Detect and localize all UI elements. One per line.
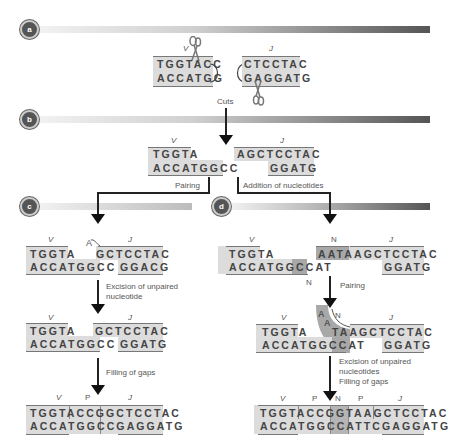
v-top-strand: TGGTA (30, 248, 76, 260)
n-bottom-nucleotides: AT (348, 339, 365, 351)
p-top-line (299, 405, 330, 406)
n-j-top-strand: AATAAGCTCCTAC (318, 248, 439, 260)
addition-arrow-horizontal (237, 192, 331, 194)
loop-nucleotide-a2: A (324, 318, 331, 328)
v-top-strand: TGGTA (30, 325, 76, 337)
j-segment-label: J (128, 235, 132, 244)
j-top-strand: AGCTCCTAC (349, 326, 434, 338)
n-top-line (331, 405, 348, 406)
v-segment-label: V (249, 235, 254, 244)
addition-arrow-shaft (237, 177, 239, 193)
excision-label: Excision of unpaired nucleotides Filling… (339, 357, 411, 387)
panel-b-badge: b (20, 110, 39, 129)
v-bottom-line (26, 434, 69, 435)
v-bottom-strand: ACCATGGCC (30, 261, 116, 273)
pairing-arrow-shaft (208, 177, 210, 193)
v-top-strand: TGGTA (262, 326, 308, 338)
pairing-arrow-horizontal (97, 192, 210, 194)
j-segment-label: J (269, 44, 273, 53)
excision-arrowhead-icon (91, 304, 105, 314)
n-segment-label: N (331, 235, 337, 244)
excision-label-line-1: Excision of unpaired (106, 282, 178, 292)
v-hairpin-icon (208, 60, 222, 88)
panel-d-badge: d (212, 197, 231, 216)
n-bottom-label: N (306, 278, 312, 287)
j-top-line (350, 246, 424, 247)
addition-label: Addition of nucleotides (243, 181, 324, 191)
p-top-line (349, 405, 373, 406)
j-bottom-strand: GGACG (120, 261, 170, 273)
v-top-line (226, 246, 260, 247)
v-top-line (153, 56, 213, 57)
excision-label-line-2: nucleotides (339, 367, 411, 377)
pairing-label: Pairing (340, 281, 365, 291)
v-bottom-strand: ACCATGGCCAT (262, 339, 366, 351)
n-top-nucleotides: AATA (318, 248, 354, 260)
scissors-icon (188, 36, 202, 62)
j-top-line (98, 246, 163, 247)
j-segment-label: J (280, 136, 284, 145)
v-bottom-line (258, 434, 298, 435)
filling-label: Filling of gaps (106, 368, 155, 378)
excision-label-line-2: nucleotide (106, 292, 178, 302)
cuts-arrowhead-icon (219, 135, 233, 145)
v-top-line (26, 405, 69, 406)
v-bottom-strand-seq: ACCATGGCC (229, 261, 315, 273)
pairing-arrow-down (97, 192, 99, 216)
n-top-nucleotides: TA (332, 326, 349, 338)
p-segment-label: P (312, 394, 317, 403)
joined-bottom-strand: ACCATGGCCGAGGATG (30, 420, 185, 432)
v-bottom-line (26, 274, 100, 275)
v-bottom-line (256, 352, 346, 353)
joined-bottom-strand: ACCATGGCCATTCGAGGATG (260, 420, 450, 432)
j-segment-label: J (389, 235, 393, 244)
pairing-arrowhead-icon (91, 214, 105, 224)
v-bottom-strand: ACCATGGCCAT (229, 261, 333, 273)
j-bottom-strand: GGATG (120, 338, 168, 350)
j-top-line (93, 323, 163, 324)
v-bottom-line (226, 274, 308, 275)
j-bottom-line (382, 434, 424, 435)
addition-arrowhead-icon (323, 214, 337, 224)
v-top-strand: TGGTA (153, 148, 199, 160)
cuts-label: Cuts (217, 97, 233, 107)
v-segment-label: V (56, 393, 61, 402)
excision-arrow-shaft (329, 356, 331, 396)
v-bottom-strand: ACCATGGCC (30, 338, 116, 350)
j-bottom-line (268, 175, 314, 176)
scissors-icon (251, 80, 265, 106)
j-bottom-strand: GGATG (384, 261, 432, 273)
excision-label-line-1: Excision of unpaired (339, 357, 411, 367)
j-top-strand: AGCTCCTAC (354, 248, 439, 260)
v-top-strand: TGGTA (229, 248, 275, 260)
pairing-label: Pairing (175, 181, 200, 191)
j-bottom-line (118, 274, 163, 275)
j-top-strand: AGCTCCTAC (237, 148, 322, 160)
filling-label: Filling of gaps (339, 377, 411, 387)
j-bottom-line (118, 434, 163, 435)
panel-b-bar (38, 116, 430, 123)
j-top-strand: CTCCTAC (244, 58, 309, 70)
v-bottom-line (153, 86, 213, 87)
j-bottom-strand: GGATG (270, 162, 318, 174)
cuts-arrow-shaft (225, 108, 227, 138)
v-segment-label: V (280, 394, 285, 403)
joined-top-strand: TGGTACCGGCTCCTAC (30, 407, 181, 419)
j-segment-label: J (128, 313, 132, 322)
v-top-line (26, 323, 68, 324)
j-top-line (374, 405, 424, 406)
p-top-line (70, 405, 100, 406)
panel-a-badge: a (20, 20, 39, 39)
v-top-line (258, 405, 298, 406)
v-segment-label: V (281, 313, 286, 322)
filling-arrow-shaft (97, 358, 99, 388)
v-bottom-line (26, 351, 100, 352)
j-top-line (242, 56, 300, 57)
j-segment-label: J (128, 393, 132, 402)
excision-label: Excision of unpaired nucleotide (106, 282, 178, 302)
joined-top-strand: TGGTACCGGTAAGCTCCTAC (260, 407, 448, 419)
v-segment-label: V (171, 136, 176, 145)
j-segment-label: J (389, 313, 393, 322)
panel-c-badge: c (20, 197, 39, 216)
p-segment-label: P (358, 394, 363, 403)
